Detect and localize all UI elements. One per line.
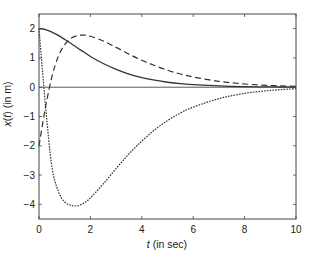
y-tick-label: 2 — [29, 23, 35, 34]
y-tick-label: −1 — [24, 111, 36, 122]
chart: 0246810 −4−3−2−1012 t (in sec) x(t) (in … — [0, 0, 311, 266]
y-tick-label: −2 — [24, 140, 36, 151]
y-tick-labels: −4−3−2−1012 — [24, 23, 36, 210]
y-axis-title: x(t) (in m) — [1, 82, 13, 128]
y-tick-label: 0 — [29, 82, 35, 93]
y-tick-label: −3 — [24, 170, 36, 181]
x-tick-label: 10 — [290, 224, 302, 235]
x-tick-label: 6 — [190, 224, 196, 235]
series-dashed-line — [39, 35, 296, 146]
x-axis-unit: (in sec) — [150, 238, 187, 250]
axis-ticks — [39, 14, 296, 219]
axes-frame — [39, 14, 296, 219]
series-dotted-line — [39, 29, 296, 206]
x-tick-label: 2 — [88, 224, 94, 235]
y-axis-unit: ) (in m) — [1, 82, 13, 115]
x-tick-label: 8 — [242, 224, 248, 235]
x-tick-label: 4 — [139, 224, 145, 235]
x-tick-labels: 0246810 — [36, 224, 302, 235]
x-axis-title: t (in sec) — [147, 238, 187, 250]
y-tick-label: −4 — [24, 199, 36, 210]
plot-curves — [39, 29, 296, 206]
series-solid-line — [39, 29, 296, 87]
y-tick-label: 1 — [29, 52, 35, 63]
x-tick-label: 0 — [36, 224, 42, 235]
